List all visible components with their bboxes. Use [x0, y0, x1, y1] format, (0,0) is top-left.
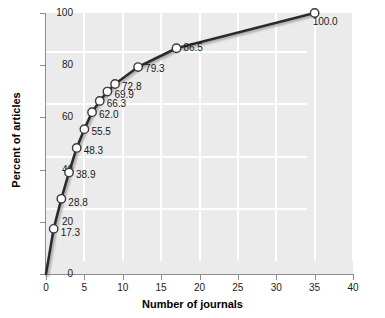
- data-point-marker: [73, 144, 81, 152]
- data-point-label: 17.3: [61, 228, 80, 238]
- data-point-marker: [103, 87, 111, 95]
- data-point-marker: [172, 44, 180, 52]
- data-point-marker: [49, 225, 57, 233]
- series-line: [46, 13, 315, 274]
- data-point-marker: [65, 168, 73, 176]
- data-point-label: 55.5: [91, 127, 110, 137]
- cumulative-line-chart: 020406080100 0510152025303540 17.328.838…: [0, 0, 385, 318]
- data-point-label: 48.3: [84, 146, 103, 156]
- data-point-marker: [134, 63, 142, 71]
- data-point-label: 79.3: [145, 64, 164, 74]
- data-point-marker: [88, 108, 96, 116]
- data-point-marker: [96, 97, 104, 105]
- data-point-marker: [111, 80, 119, 88]
- x-axis-title: Number of journals: [0, 298, 385, 310]
- data-point-marker: [80, 125, 88, 133]
- data-point-label: 28.8: [68, 198, 87, 208]
- data-point-marker: [57, 195, 65, 203]
- y-axis-title: Percent of articles: [10, 70, 22, 210]
- data-point-label: 38.9: [76, 170, 95, 180]
- data-point-label: 72.8: [122, 82, 141, 92]
- data-point-label: 86.5: [183, 43, 202, 53]
- data-point-label: 100.0: [313, 17, 338, 27]
- data-point-label: 62.0: [99, 110, 118, 120]
- data-point-label: 66.3: [107, 99, 126, 109]
